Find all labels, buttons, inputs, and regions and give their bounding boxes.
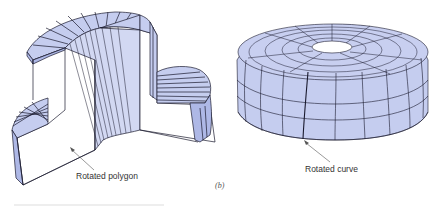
rotated-curve-solid xyxy=(237,24,428,162)
cropped-caption-remnant xyxy=(14,204,164,206)
subfigure-label: (b) xyxy=(215,181,224,190)
rotated-curve-label: Rotated curve xyxy=(305,164,358,174)
rotated-polygon-solid xyxy=(12,12,215,185)
figure-canvas xyxy=(0,0,444,209)
rotated-polygon-label: Rotated polygon xyxy=(76,171,138,181)
